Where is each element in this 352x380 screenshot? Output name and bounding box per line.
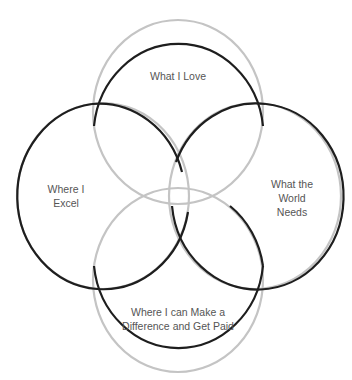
label-what-i-love: What I Love bbox=[128, 69, 228, 83]
label-line: Excel bbox=[36, 196, 96, 210]
label-line: Where I bbox=[36, 182, 96, 196]
circle-top-outline bbox=[94, 44, 263, 126]
label-make-a-difference: Where I can Make a Difference and Get Pa… bbox=[108, 305, 248, 333]
label-text: What I Love bbox=[150, 70, 206, 82]
label-where-i-excel: Where I Excel bbox=[36, 182, 96, 210]
label-what-the-world-needs: What the World Needs bbox=[262, 177, 322, 219]
label-line: What the bbox=[262, 177, 322, 191]
label-line: Difference and Get Paid bbox=[108, 319, 248, 333]
label-line: Where I can Make a bbox=[108, 305, 248, 319]
label-line: World bbox=[262, 191, 322, 205]
label-line: Needs bbox=[262, 205, 322, 219]
